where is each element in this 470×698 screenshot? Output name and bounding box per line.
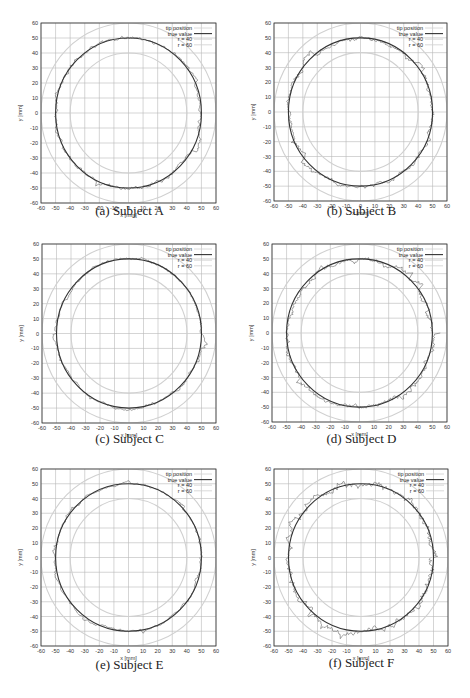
y-tick-label: 60: [265, 466, 271, 472]
y-tick-label: -30: [263, 599, 271, 605]
tip-position-trace: [286, 481, 438, 638]
y-tick-label: -20: [263, 584, 271, 590]
x-tick-label: -20: [328, 648, 336, 654]
y-tick-label: 50: [265, 481, 271, 487]
x-tick-label: 50: [430, 648, 436, 654]
x-tick-label: -10: [343, 648, 351, 654]
x-tick-label: -60: [270, 648, 278, 654]
x-tick-label: 10: [372, 648, 378, 654]
grid: [274, 469, 448, 646]
y-tick-label: -10: [263, 569, 271, 575]
y-tick-label: -50: [263, 628, 271, 634]
y-tick-label: 30: [265, 510, 271, 516]
legend-label: r = 60: [410, 488, 424, 494]
x-tick-label: 20: [387, 648, 393, 654]
y-tick-label: 0: [268, 555, 271, 561]
x-tick-label: 40: [416, 648, 422, 654]
x-tick-label: 60: [445, 648, 451, 654]
y-tick-label: -60: [263, 643, 271, 649]
x-tick-label: -50: [285, 648, 293, 654]
chart-f: -60-50-40-30-20-100102030405060-60-50-40…: [0, 0, 470, 698]
y-tick-label: -40: [263, 614, 271, 620]
y-axis-label: y [mm]: [250, 549, 256, 566]
y-tick-label: 10: [265, 540, 271, 546]
x-tick-label: 0: [359, 648, 362, 654]
y-tick-label: 20: [265, 525, 271, 531]
x-tick-label: -40: [299, 648, 307, 654]
y-tick-label: 40: [265, 496, 271, 502]
panel-caption: (f) Subject F: [244, 655, 470, 671]
x-tick-label: 30: [401, 648, 407, 654]
x-tick-label: -30: [314, 648, 322, 654]
